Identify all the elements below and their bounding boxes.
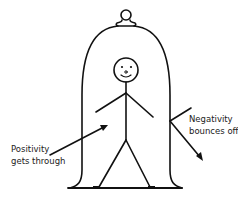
negativity-label-line1: Negativity <box>189 113 238 125</box>
figure-left-leg <box>99 140 126 187</box>
negativity-label-line2: bounces off <box>189 125 238 137</box>
figure-right-eye <box>130 66 132 68</box>
figure-right-arm <box>126 93 153 117</box>
bell-jar-diagram <box>0 0 238 197</box>
figure-left-eye <box>121 66 123 68</box>
bell-knob <box>121 10 131 20</box>
positivity-label-line1: Positivity <box>11 143 66 155</box>
figure-smile <box>121 75 131 77</box>
bell-knob-flange <box>116 20 136 26</box>
negativity-label: Negativity bounces off <box>189 113 238 137</box>
positivity-label-line2: gets through <box>11 155 66 167</box>
negativity-incoming-line <box>170 108 191 121</box>
figure-nose <box>125 71 127 73</box>
left-foot <box>93 186 100 189</box>
positivity-label: Positivity gets through <box>11 143 66 167</box>
figure-right-leg <box>126 140 150 187</box>
figure-left-arm <box>96 93 126 112</box>
right-foot <box>148 186 155 189</box>
figure-head <box>114 58 138 82</box>
